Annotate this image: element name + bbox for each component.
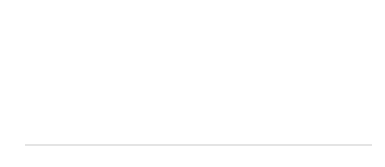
line-chart — [0, 0, 385, 167]
